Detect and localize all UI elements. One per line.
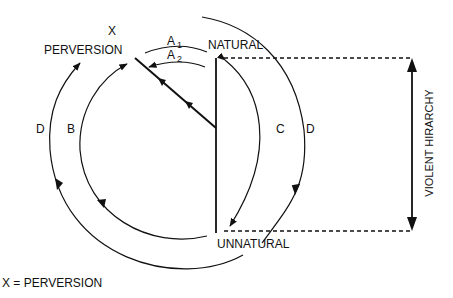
a2-main: A: [167, 48, 175, 62]
arc-d-left: [50, 63, 243, 269]
violent-hierarchy-label: VIOLENT HIRARCHY: [423, 88, 435, 198]
arc-b: [80, 64, 207, 239]
a2-sub: 2: [177, 54, 182, 64]
natural-label: NATURAL: [208, 39, 263, 51]
b-label: B: [67, 123, 75, 135]
a1-label: A1: [167, 35, 182, 47]
d-right-label: D: [306, 123, 315, 135]
a2-label: A2: [167, 49, 182, 61]
arrowhead-up-icon: [407, 58, 417, 72]
unnatural-label: UNNATURAL: [217, 238, 289, 250]
arrowhead-down-icon: [407, 217, 417, 231]
arc-d-right-arrowhead-icon: [290, 182, 300, 195]
c-label: C: [276, 123, 285, 135]
a1-main: A: [167, 34, 175, 48]
arc-c: [225, 60, 260, 226]
perversion-diagonal: [135, 58, 216, 128]
d-left-label: D: [36, 123, 45, 135]
legend: X = PERVERSION: [2, 277, 102, 289]
perversion-label: PERVERSION: [44, 44, 122, 56]
x-label: X: [108, 25, 116, 37]
